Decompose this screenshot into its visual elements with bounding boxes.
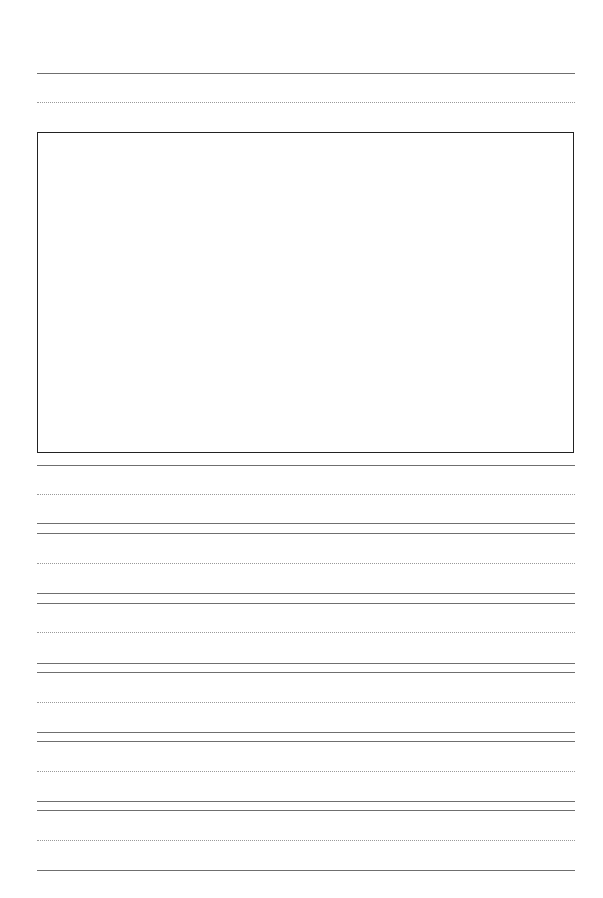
title-writing-line: [37, 73, 575, 74]
row-baseline: [37, 523, 575, 524]
row-top-line: [37, 810, 575, 811]
drawing-box-content: [38, 133, 39, 134]
row-baseline: [37, 870, 575, 871]
row-midline-dotted: [37, 494, 575, 495]
row-baseline: [37, 801, 575, 802]
row-midline-dotted: [37, 771, 575, 772]
row-top-line: [37, 533, 575, 534]
row-baseline: [37, 732, 575, 733]
row-top-line: [37, 465, 575, 466]
row-baseline: [37, 593, 575, 594]
drawing-box[interactable]: [37, 132, 574, 453]
row-midline-dotted: [37, 563, 575, 564]
row-top-line: [37, 603, 575, 604]
row-midline-dotted: [37, 840, 575, 841]
row-midline-dotted: [37, 632, 575, 633]
row-top-line: [37, 672, 575, 673]
row-midline-dotted: [37, 702, 575, 703]
row-top-line: [37, 741, 575, 742]
title-midline-dotted: [37, 102, 575, 103]
row-baseline: [37, 663, 575, 664]
